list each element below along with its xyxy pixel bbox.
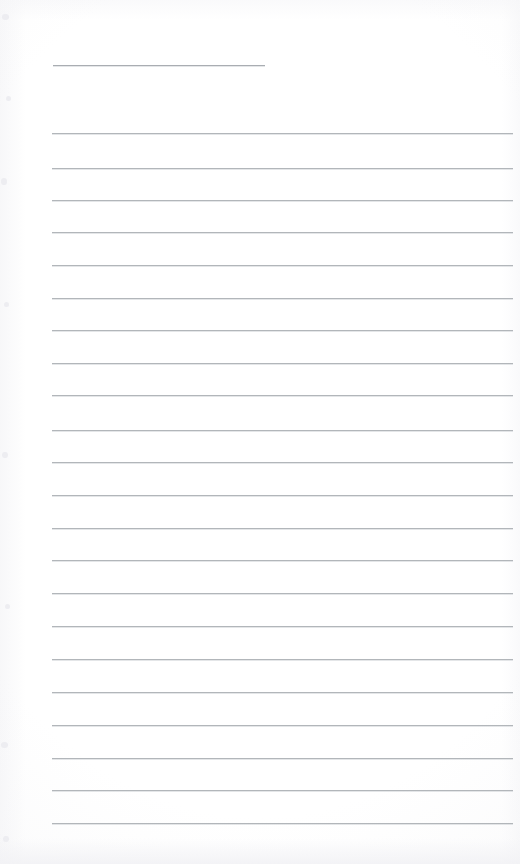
ruled-line xyxy=(52,430,513,431)
scan-speck xyxy=(5,604,10,609)
ruled-line xyxy=(52,232,513,233)
ruled-line xyxy=(52,363,513,364)
scan-speck xyxy=(6,96,11,101)
scan-bottom-edge xyxy=(0,838,520,864)
ruled-line xyxy=(52,790,513,791)
scan-speck xyxy=(3,836,9,842)
scan-speck xyxy=(2,14,9,20)
ruled-line xyxy=(52,495,513,496)
ruled-line xyxy=(52,725,513,726)
ruled-line xyxy=(52,692,513,693)
ruled-line xyxy=(52,133,513,134)
scan-speck xyxy=(2,452,8,458)
ruled-line xyxy=(52,265,513,266)
ruled-line xyxy=(52,626,513,627)
ruled-line xyxy=(52,560,513,561)
ruled-line xyxy=(52,298,513,299)
scanned-page xyxy=(0,0,520,864)
ruled-line xyxy=(52,528,513,529)
scan-speck xyxy=(1,742,8,748)
ruled-line xyxy=(52,823,513,824)
ruled-line xyxy=(52,200,513,201)
ruled-line xyxy=(52,168,513,169)
ruled-line xyxy=(52,330,513,331)
scan-speck xyxy=(1,178,7,185)
scan-speck xyxy=(4,302,9,307)
ruled-line-short xyxy=(53,65,265,66)
paper-texture xyxy=(0,0,520,864)
ruled-line xyxy=(52,659,513,660)
ruled-line xyxy=(52,395,513,396)
ruled-line xyxy=(52,593,513,594)
ruled-line xyxy=(52,758,513,759)
ruled-line xyxy=(52,462,513,463)
